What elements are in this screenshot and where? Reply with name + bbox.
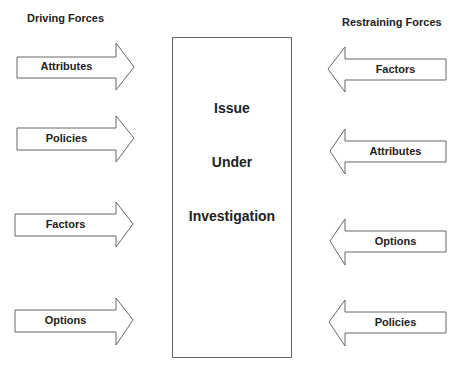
- driving-force-label: Factors: [15, 218, 116, 230]
- restraining-force-label: Policies: [345, 316, 446, 328]
- issue-text-line-3: Investigation: [172, 208, 292, 224]
- issue-box: [173, 38, 292, 358]
- restraining-force-label: Factors: [345, 63, 446, 75]
- issue-text-line-2: Under: [172, 154, 292, 170]
- driving-force-label: Attributes: [17, 60, 116, 72]
- restraining-force-label: Attributes: [345, 145, 446, 157]
- driving-force-label: Options: [15, 314, 116, 326]
- issue-text-line-1: Issue: [172, 100, 292, 116]
- restraining-force-label: Options: [345, 235, 446, 247]
- driving-force-label: Policies: [17, 132, 116, 144]
- force-field-diagram: [0, 0, 459, 366]
